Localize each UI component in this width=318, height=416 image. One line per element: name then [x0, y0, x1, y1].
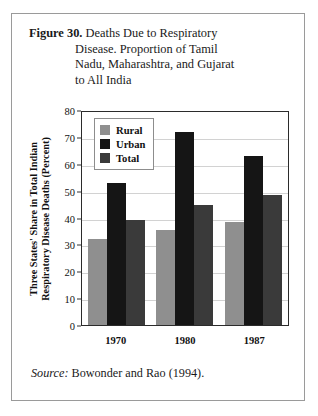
bar-urban-1987 — [244, 156, 263, 325]
source-text: Bowonder and Rao (1994). — [72, 366, 205, 380]
legend-item-urban: Urban — [100, 137, 145, 151]
y-tick-label: 30 — [65, 240, 76, 251]
bar-rural-1987 — [225, 222, 244, 325]
title-line-1: Figure 30. Deaths Due to Respiratory — [29, 26, 291, 42]
legend-item-total: Total — [100, 151, 145, 165]
title-line-3: Nadu, Maharashtra, and Gujarat — [29, 57, 291, 73]
x-tick-label: 1970 — [84, 326, 148, 346]
bar-total-1970 — [126, 220, 145, 325]
legend-label-rural: Rural — [116, 125, 142, 136]
x-axis-ticks: 197019801987 — [81, 326, 289, 350]
figure-title: Figure 30. Deaths Due to Respiratory Dis… — [29, 26, 291, 88]
legend-swatch-urban — [100, 139, 110, 149]
legend-label-urban: Urban — [116, 139, 145, 150]
bar-group — [225, 112, 282, 325]
bar-urban-1970 — [107, 183, 126, 325]
bar-total-1980 — [194, 205, 213, 325]
legend-swatch-total — [100, 153, 110, 163]
y-tick-label: 10 — [65, 294, 76, 305]
y-tick-label: 20 — [65, 267, 76, 278]
bar-urban-1980 — [175, 132, 194, 326]
y-axis-label: Three States' Share in Total Indian Resp… — [27, 111, 53, 326]
bar-chart: Three States' Share in Total Indian Resp… — [31, 111, 289, 359]
figure-page: Figure 30. Deaths Due to Respiratory Dis… — [11, 13, 305, 401]
title-line-4: to All India — [29, 73, 291, 89]
bar-total-1987 — [263, 195, 282, 325]
y-tick-label: 50 — [65, 186, 76, 197]
x-tick-label: 1980 — [153, 326, 217, 346]
y-tick-label: 0 — [70, 321, 75, 332]
y-axis-label-line-1: Three States' Share in Total Indian — [28, 112, 40, 326]
y-tick-label: 40 — [65, 213, 76, 224]
y-axis-label-line-2: Respiratory Disease Deaths (Percent) — [40, 112, 52, 326]
legend-item-rural: Rural — [100, 123, 145, 137]
x-tick-label: 1987 — [222, 326, 286, 346]
title-line-2: Disease. Proportion of Tamil — [29, 42, 291, 58]
figure-source: Source: Bowonder and Rao (1994). — [31, 366, 204, 381]
y-tick-label: 60 — [65, 159, 76, 170]
legend-label-total: Total — [116, 153, 139, 164]
legend-swatch-rural — [100, 125, 110, 135]
chart-legend: Rural Urban Total — [94, 118, 154, 170]
y-axis-ticks: 01020304050607080 — [57, 111, 77, 326]
y-tick-label: 70 — [65, 132, 76, 143]
y-tick-label: 80 — [65, 106, 76, 117]
bar-rural-1970 — [88, 239, 107, 325]
plot-area: Rural Urban Total — [81, 111, 289, 326]
title-text-1: Deaths Due to Respiratory — [86, 26, 218, 40]
source-prefix: Source: — [31, 366, 68, 380]
bar-group — [156, 112, 213, 325]
figure-number: Figure 30. — [29, 26, 82, 40]
bar-rural-1980 — [156, 230, 175, 325]
